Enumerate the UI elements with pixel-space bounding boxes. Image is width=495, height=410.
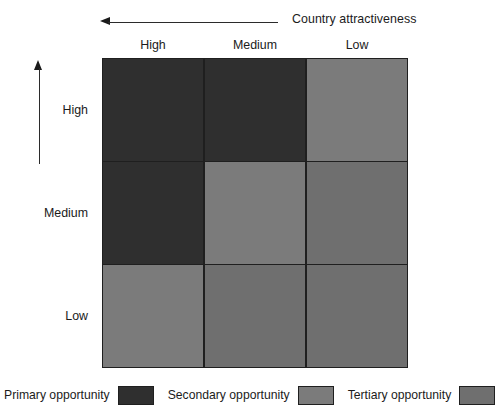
- matrix-cell[interactable]: [205, 162, 305, 264]
- legend: Primary opportunity Secondary opportunit…: [4, 383, 428, 407]
- column-header-low: Low: [306, 38, 408, 56]
- country-attractiveness-axis: Country attractiveness: [100, 12, 410, 34]
- matrix-cell[interactable]: [205, 59, 305, 161]
- matrix-cell[interactable]: [103, 59, 203, 161]
- matrix-cell[interactable]: [103, 265, 203, 367]
- matrix-cell[interactable]: [205, 265, 305, 367]
- legend-item: Tertiary opportunity: [348, 386, 495, 405]
- left-arrow-icon: [100, 21, 278, 23]
- matrix-grid: [102, 58, 408, 368]
- legend-label: Primary opportunity: [4, 388, 110, 402]
- column-headers: High Medium Low: [102, 38, 408, 56]
- legend-swatch: [459, 386, 495, 405]
- column-header-high: High: [102, 38, 204, 56]
- legend-item: Secondary opportunity: [168, 386, 334, 405]
- x-axis-label: Country attractiveness: [292, 12, 416, 26]
- legend-label: Tertiary opportunity: [348, 388, 452, 402]
- row-header-medium: Medium: [20, 161, 96, 264]
- legend-label: Secondary opportunity: [168, 388, 290, 402]
- matrix-cell[interactable]: [307, 265, 407, 367]
- legend-swatch: [298, 386, 334, 405]
- legend-swatch: [118, 386, 154, 405]
- legend-item: Primary opportunity: [4, 386, 154, 405]
- column-header-medium: Medium: [204, 38, 306, 56]
- matrix-cell[interactable]: [307, 162, 407, 264]
- row-header-low: Low: [20, 265, 96, 368]
- row-headers: High Medium Low: [20, 58, 96, 368]
- matrix-cell[interactable]: [307, 59, 407, 161]
- matrix-cell[interactable]: [103, 162, 203, 264]
- row-header-high: High: [20, 58, 96, 161]
